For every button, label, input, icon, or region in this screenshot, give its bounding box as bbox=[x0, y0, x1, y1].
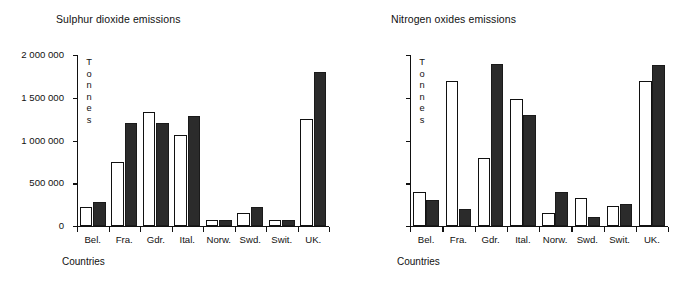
bar-bel-open bbox=[80, 207, 93, 226]
y-axis-tick-label: 2 000 000 bbox=[21, 50, 64, 60]
x-axis-label-norw: Norw. bbox=[203, 235, 235, 245]
x-axis-label-swit: Swit. bbox=[604, 235, 636, 245]
bar-ital-open bbox=[174, 135, 187, 226]
x-axis-label-gdr: Gdr. bbox=[475, 235, 507, 245]
bars-layer bbox=[77, 55, 329, 226]
x-axis-tick bbox=[77, 227, 78, 232]
x-axis-label-fra: Fra. bbox=[442, 235, 474, 245]
bar-fra-open bbox=[446, 81, 459, 226]
x-axis-label-norw: Norw. bbox=[539, 235, 571, 245]
chart-title-sulphur-dioxide: Sulphur dioxide emissions bbox=[56, 13, 180, 25]
bar-norw-solid bbox=[555, 192, 568, 226]
bar-gdr-solid bbox=[156, 123, 169, 226]
bar-bel-open bbox=[413, 192, 426, 226]
bar-swit-open bbox=[607, 206, 620, 226]
x-axis-tick bbox=[668, 227, 669, 232]
x-axis-tick bbox=[475, 227, 476, 232]
bar-swit-solid bbox=[620, 204, 633, 226]
x-axis-caption-left: Countries bbox=[62, 256, 105, 267]
bar-gdr-solid bbox=[491, 64, 504, 226]
bar-norw-solid bbox=[219, 220, 232, 226]
x-axis-caption-right: Countries bbox=[397, 256, 440, 267]
bar-uk-solid bbox=[652, 65, 665, 226]
bar-fra-open bbox=[111, 162, 124, 226]
x-axis-tick bbox=[604, 227, 605, 232]
x-axis-tick bbox=[507, 227, 508, 232]
bar-ital-solid bbox=[188, 116, 201, 226]
bar-swit-solid bbox=[282, 220, 295, 226]
bar-gdr-open bbox=[478, 158, 491, 226]
x-axis-tick bbox=[571, 227, 572, 232]
bar-gdr-open bbox=[143, 112, 156, 226]
x-axis-label-bel: Bel. bbox=[77, 235, 109, 245]
emissions-figure: Sulphur dioxide emissions 01 500 0003 00… bbox=[0, 0, 677, 282]
bar-uk-solid bbox=[314, 72, 327, 226]
x-axis-label-gdr: Gdr. bbox=[140, 235, 172, 245]
bar-ital-solid bbox=[523, 115, 536, 226]
bar-fra-solid bbox=[459, 209, 472, 226]
x-axis-label-ital: Ital. bbox=[507, 235, 539, 245]
x-axis-tick bbox=[203, 227, 204, 232]
y-axis-tick-label: 500 000 bbox=[29, 178, 64, 188]
bar-swd-solid bbox=[251, 207, 264, 226]
x-axis-tick bbox=[636, 227, 637, 232]
x-axis-tick bbox=[235, 227, 236, 232]
x-axis-label-swd: Swd. bbox=[571, 235, 603, 245]
bar-fra-solid bbox=[125, 123, 138, 226]
x-axis-tick bbox=[109, 227, 110, 232]
x-axis-tick bbox=[442, 227, 443, 232]
bar-swd-solid bbox=[588, 217, 601, 226]
x-axis-tick bbox=[539, 227, 540, 232]
y-axis-tick-label: 1 500 000 bbox=[21, 93, 64, 103]
bar-norw-open bbox=[206, 220, 219, 226]
x-axis-tick bbox=[140, 227, 141, 232]
y-axis-tick-label: 0 bbox=[59, 221, 64, 231]
y-axis-tick-label: 1 000 000 bbox=[21, 136, 64, 146]
x-axis-label-swd: Swd. bbox=[235, 235, 267, 245]
x-axis-tick bbox=[298, 227, 299, 232]
bar-swd-open bbox=[575, 198, 588, 226]
x-axis-label-bel: Bel. bbox=[410, 235, 442, 245]
bar-ital-open bbox=[510, 99, 523, 226]
x-axis-label-uk: UK. bbox=[298, 235, 330, 245]
chart-panel-nitrogen-oxides: Nitrogen oxides emissions 0500 0001 000 … bbox=[339, 0, 677, 282]
bar-swd-open bbox=[237, 213, 250, 226]
x-axis-tick bbox=[329, 227, 330, 232]
bar-norw-open bbox=[542, 213, 555, 226]
x-axis-label-ital: Ital. bbox=[172, 235, 204, 245]
bar-uk-open bbox=[300, 119, 313, 226]
x-axis-label-fra: Fra. bbox=[109, 235, 141, 245]
x-axis-tick bbox=[410, 227, 411, 232]
x-axis-tick bbox=[266, 227, 267, 232]
bars-layer bbox=[410, 55, 668, 226]
bar-uk-open bbox=[639, 81, 652, 226]
x-axis-label-swit: Swit. bbox=[266, 235, 298, 245]
bar-swit-open bbox=[269, 220, 282, 226]
bar-bel-solid bbox=[426, 200, 439, 226]
chart-title-nitrogen-oxides: Nitrogen oxides emissions bbox=[391, 13, 516, 25]
x-axis-label-uk: UK. bbox=[636, 235, 668, 245]
x-axis-tick bbox=[172, 227, 173, 232]
bar-bel-solid bbox=[93, 202, 106, 226]
